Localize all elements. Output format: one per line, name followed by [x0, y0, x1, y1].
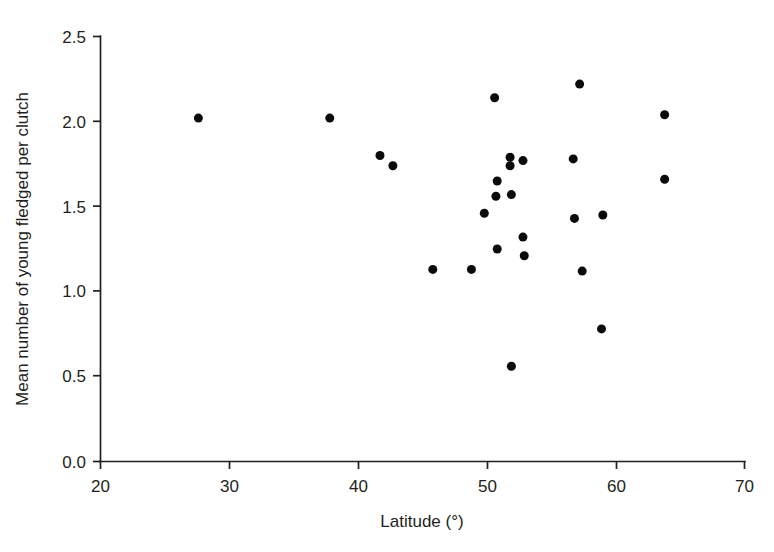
data-point [194, 114, 203, 123]
x-tick-label: 20 [91, 477, 110, 496]
x-tick-label: 50 [478, 477, 497, 496]
x-tick-labels: 20 30 40 50 60 70 [91, 477, 754, 496]
x-tick-label: 40 [349, 477, 368, 496]
data-point [578, 267, 587, 276]
y-axis-ticks [93, 37, 100, 462]
data-point [518, 233, 527, 242]
data-point [506, 153, 515, 162]
data-point [570, 214, 579, 223]
data-point [493, 245, 502, 254]
plot-canvas: 2.5 2.0 1.5 1.0 0.5 0.0 20 30 40 50 60 7… [0, 0, 774, 552]
data-point [520, 251, 529, 260]
data-point [480, 209, 489, 218]
y-tick-labels: 2.5 2.0 1.5 1.0 0.5 0.0 [62, 28, 86, 472]
data-point [376, 151, 385, 160]
y-tick-label: 2.5 [62, 28, 86, 47]
data-point [388, 161, 397, 170]
x-tick-label: 70 [735, 477, 754, 496]
y-tick-label: 0.5 [62, 367, 86, 386]
data-point [491, 192, 500, 201]
y-tick-label: 1.0 [62, 282, 86, 301]
data-point [518, 156, 527, 165]
data-points-layer [194, 80, 669, 371]
data-point [493, 177, 502, 186]
data-point [507, 362, 516, 371]
data-point [428, 265, 437, 274]
data-point [660, 175, 669, 184]
x-tick-label: 60 [607, 477, 626, 496]
data-point [597, 324, 606, 333]
data-point [660, 110, 669, 119]
data-point [467, 265, 476, 274]
x-tick-label: 30 [220, 477, 239, 496]
y-axis-title: Mean number of young fledged per clutch [13, 92, 32, 406]
data-point [507, 190, 516, 199]
data-point [569, 154, 578, 163]
data-point [490, 93, 499, 102]
data-point [575, 80, 584, 89]
data-point [325, 114, 334, 123]
data-point [598, 211, 607, 220]
x-axis-title: Latitude (°) [380, 512, 463, 531]
data-point [506, 161, 515, 170]
scatter-plot-figure: 2.5 2.0 1.5 1.0 0.5 0.0 20 30 40 50 60 7… [0, 0, 774, 552]
y-tick-label: 2.0 [62, 113, 86, 132]
y-tick-label: 0.0 [62, 453, 86, 472]
y-tick-label: 1.5 [62, 198, 86, 217]
